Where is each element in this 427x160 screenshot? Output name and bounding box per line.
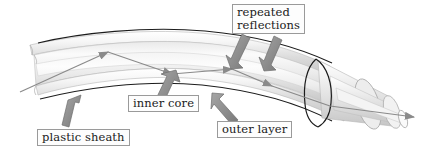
- cable-right-cutaway: [304, 59, 409, 132]
- label-repeated-reflections: repeated reflections: [232, 4, 305, 34]
- label-plastic-sheath: plastic sheath: [37, 129, 130, 146]
- fiber-optic-diagram: repeated reflections plastic sheath inne…: [0, 0, 427, 160]
- label-inner-core: inner core: [128, 95, 199, 112]
- label-outer-layer: outer layer: [217, 121, 292, 138]
- cable-body: [30, 29, 409, 132]
- pointer-arrow-plastic-sheath: [62, 95, 81, 127]
